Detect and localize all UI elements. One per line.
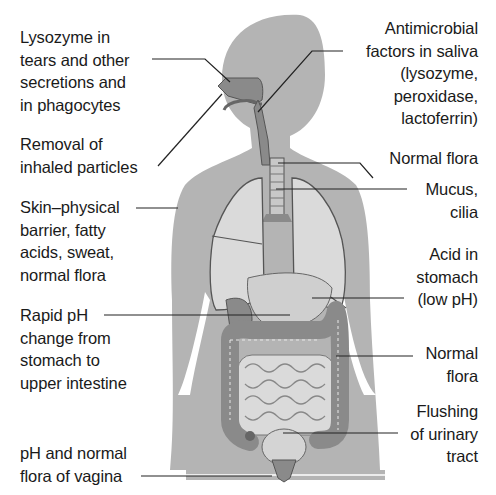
- label-vagina-ph-flora: pH and normal flora of vagina: [20, 442, 127, 487]
- label-stomach-acid: Acid in stomach (low pH): [416, 243, 478, 311]
- label-rapid-ph-change: Rapid pH change from stomach to upper in…: [20, 304, 127, 394]
- label-lysozyme: Lysozyme in tears and other secretions a…: [20, 26, 130, 116]
- label-normal-flora-throat: Normal flora: [389, 147, 478, 170]
- label-urinary-flushing: Flushing of urinary tract: [410, 400, 478, 468]
- label-removal-inhaled-particles: Removal of inhaled particles: [20, 133, 138, 178]
- small-intestine: [238, 355, 334, 435]
- label-normal-flora-colon: Normal flora: [425, 342, 478, 387]
- label-skin-barrier: Skin–physical barrier, fatty acids, swea…: [20, 196, 120, 286]
- label-mucus-cilia: Mucus, cilia: [425, 178, 478, 223]
- label-saliva-antimicrobial: Antimicrobial factors in saliva (lysozym…: [366, 17, 478, 130]
